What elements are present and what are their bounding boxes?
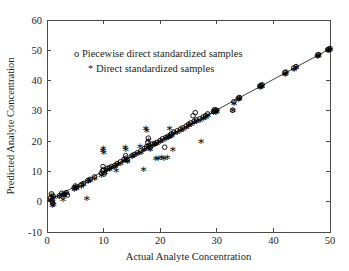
data-point-star: ∗	[139, 162, 147, 176]
x-axis-title: Actual Analyte Concentration	[126, 251, 252, 262]
x-tick-label: 40	[268, 235, 279, 246]
y-tick-label: 40	[32, 75, 43, 86]
y-axis-title: Predicted Analyte Concentration	[5, 57, 16, 195]
y-tick-label: 60	[32, 15, 43, 26]
data-point-star: ∗	[315, 48, 323, 62]
y-tick-label: -10	[28, 227, 42, 238]
y-tick-label: 0	[37, 196, 42, 207]
scatter-plot-figure: 01020304050 -100102030405060 ∗∗∗∗∗∗∗∗∗∗∗…	[0, 0, 349, 271]
data-point-star: ∗	[292, 60, 300, 74]
data-point-star: ∗	[258, 79, 266, 93]
data-point-star: ∗	[197, 134, 205, 148]
legend-entry-direct: * Direct standardized samples	[88, 63, 214, 74]
y-tick-label: 20	[32, 136, 43, 147]
data-point-star: ∗	[83, 191, 91, 205]
data-point-star: ∗	[169, 142, 177, 156]
plot-canvas: 01020304050 -100102030405060 ∗∗∗∗∗∗∗∗∗∗∗…	[0, 0, 349, 271]
y-tick-label: 30	[32, 105, 43, 116]
x-tick-label: 50	[325, 235, 336, 246]
x-tick-label: 0	[44, 235, 49, 246]
x-tick-label: 30	[212, 235, 223, 246]
legend-entry-piecewise: o Piecewise direct standardized samples	[74, 48, 243, 59]
data-point-star: ∗	[100, 145, 108, 159]
data-point-star: ∗	[235, 91, 243, 105]
x-tick-label: 10	[98, 235, 109, 246]
x-tick-label: 20	[155, 235, 166, 246]
data-point-star: ∗	[213, 104, 221, 118]
y-tick-label: 50	[32, 45, 43, 56]
y-tick-label: 10	[32, 166, 43, 177]
data-point-star: ∗	[326, 42, 334, 56]
